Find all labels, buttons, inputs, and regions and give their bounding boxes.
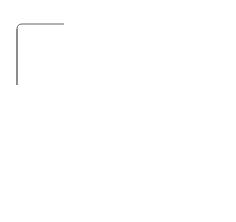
single-head-attention-diagram [0, 0, 236, 222]
outer-frame [17, 24, 64, 87]
